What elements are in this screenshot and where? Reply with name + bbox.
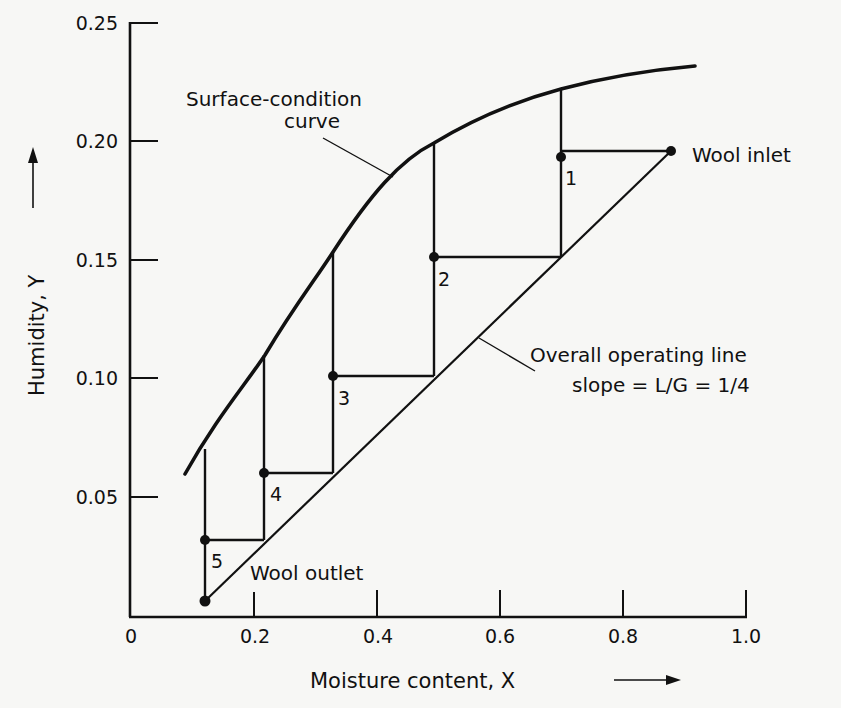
stage-1-label: 1 bbox=[565, 167, 577, 189]
operating-line-label-line2: slope = L/G = 1/4 bbox=[572, 373, 750, 397]
operating-line-annotation: Overall operating line slope = L/G = 1/4 bbox=[479, 338, 750, 397]
x-axis-title: Moisture content, X bbox=[310, 669, 515, 693]
stage-4-point bbox=[259, 468, 269, 478]
y-tick-label: 0.25 bbox=[76, 12, 118, 34]
surface-curve-label-line1: Surface-condition bbox=[186, 87, 362, 111]
stage-labels: 1 2 3 4 5 bbox=[211, 167, 577, 572]
stage-2-label: 2 bbox=[438, 268, 450, 290]
wool-inlet-point bbox=[666, 146, 676, 156]
operating-line-label-line1: Overall operating line bbox=[530, 343, 747, 367]
x-tick-label: 0.8 bbox=[608, 625, 638, 647]
y-axis-arrow bbox=[28, 147, 38, 208]
wool-inlet-label: Wool inlet bbox=[692, 143, 791, 167]
x-tick-labels: 0 0.2 0.4 0.6 0.8 1.0 bbox=[125, 625, 761, 647]
surface-curve-label-line2: curve bbox=[284, 109, 340, 133]
wool-outlet-label: Wool outlet bbox=[250, 561, 364, 585]
x-ticks bbox=[254, 590, 746, 617]
y-axis-title: Humidity, Y bbox=[25, 274, 49, 396]
x-tick-label: 0.2 bbox=[240, 625, 270, 647]
x-tick-label: 1.0 bbox=[731, 625, 761, 647]
surface-curve-leader bbox=[323, 138, 393, 177]
y-tick-label: 0.05 bbox=[76, 486, 118, 508]
stage-2-point bbox=[429, 252, 439, 262]
stage-5-point bbox=[200, 535, 210, 545]
y-tick-labels: 0.25 0.20 0.15 0.10 0.05 bbox=[76, 12, 118, 508]
stage-4-label: 4 bbox=[270, 483, 282, 505]
x-tick-label: 0 bbox=[125, 625, 137, 647]
y-tick-label: 0.10 bbox=[76, 367, 118, 389]
wool-outlet-point bbox=[200, 596, 211, 607]
stage-1-point bbox=[556, 152, 566, 162]
x-tick-label: 0.4 bbox=[363, 625, 393, 647]
stage-3-label: 3 bbox=[338, 387, 350, 409]
x-tick-label: 0.6 bbox=[485, 625, 515, 647]
axes bbox=[129, 22, 747, 617]
x-axis-arrow bbox=[614, 675, 681, 685]
y-tick-label: 0.15 bbox=[76, 249, 118, 271]
y-tick-label: 0.20 bbox=[76, 130, 118, 152]
stage-diagram: 0.25 0.20 0.15 0.10 0.05 0 0.2 0.4 0.6 0… bbox=[0, 0, 841, 708]
y-ticks bbox=[130, 23, 158, 497]
stage-5-label: 5 bbox=[211, 550, 223, 572]
operating-line-leader bbox=[479, 338, 535, 371]
surface-curve-annotation: Surface-condition curve bbox=[186, 87, 393, 177]
stage-3-point bbox=[328, 371, 338, 381]
